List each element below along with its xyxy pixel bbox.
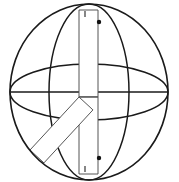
sphere-diagram — [0, 0, 179, 182]
upper-rivet-dot — [97, 20, 101, 24]
band-upper-arm — [79, 10, 98, 97]
lower-rivet-dot — [97, 156, 101, 160]
figure-container: Sphere with orthogonal great circles and… — [0, 0, 179, 182]
